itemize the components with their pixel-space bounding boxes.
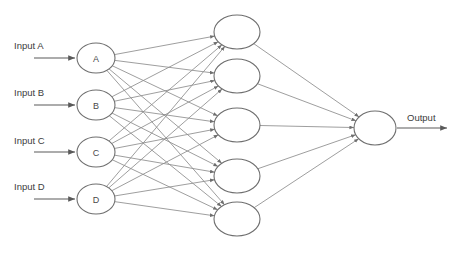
neuron-shape bbox=[214, 202, 260, 236]
neuron-label: D bbox=[93, 195, 100, 205]
neuron-shape bbox=[214, 59, 260, 93]
synapse-edge bbox=[115, 180, 215, 196]
synapse-edge bbox=[257, 84, 355, 121]
synapse-edge bbox=[112, 42, 218, 97]
neuron-in-d[interactable]: D bbox=[77, 184, 115, 214]
neuron-in-a[interactable]: A bbox=[77, 43, 115, 73]
synapse-edge bbox=[258, 135, 356, 169]
network-canvas: ABCD Input AInput BInput CInput DOutput bbox=[0, 0, 455, 254]
neuron-h4[interactable] bbox=[214, 159, 260, 193]
neuron-in-b[interactable]: B bbox=[77, 90, 115, 120]
synapse-edge bbox=[112, 135, 218, 191]
synapse-edge bbox=[107, 46, 225, 186]
synapse-edge bbox=[109, 69, 222, 163]
neuron-h3[interactable] bbox=[214, 108, 260, 142]
neuron-out-1[interactable] bbox=[354, 111, 396, 145]
neuron-label: C bbox=[93, 148, 100, 158]
synapse-edge bbox=[254, 44, 359, 117]
synapse-edge bbox=[254, 139, 359, 208]
neuron-in-c[interactable]: C bbox=[77, 137, 115, 167]
synapse-edge bbox=[260, 126, 354, 128]
neuron-label: B bbox=[93, 101, 99, 111]
synapse-edge bbox=[112, 160, 217, 210]
synapse-edge bbox=[114, 81, 214, 102]
neural-network-diagram: ABCD Input AInput BInput CInput DOutput bbox=[0, 0, 455, 254]
neuron-label: A bbox=[93, 54, 99, 64]
neuron-h2[interactable] bbox=[214, 59, 260, 93]
input-label-2: Input B bbox=[14, 87, 44, 98]
neuron-shape bbox=[354, 111, 396, 145]
synapse-edge bbox=[109, 116, 221, 207]
neuron-h1[interactable] bbox=[214, 15, 260, 49]
neuron-shape bbox=[214, 15, 260, 49]
synapse-edge bbox=[109, 89, 222, 188]
synapse-edge bbox=[115, 36, 215, 54]
synapse-edge bbox=[112, 113, 218, 166]
neuron-shape bbox=[214, 108, 260, 142]
synapse-edge bbox=[115, 60, 215, 73]
neuron-h5[interactable] bbox=[214, 202, 260, 236]
input-label-3: Input C bbox=[14, 135, 45, 146]
input-label-4: Input D bbox=[14, 181, 45, 192]
input-label-1: Input A bbox=[14, 40, 44, 51]
neuron-shape bbox=[214, 159, 260, 193]
synapse-edge bbox=[115, 202, 215, 216]
output-label: Output bbox=[407, 112, 436, 123]
